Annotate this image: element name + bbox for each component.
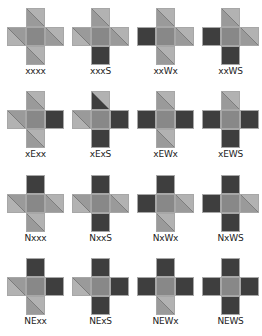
south-arm — [26, 129, 45, 148]
south-arm — [221, 213, 240, 232]
north-arm — [26, 91, 45, 110]
tile-label: NxWS — [202, 233, 259, 243]
cross-tile-xexx: xExx — [7, 91, 64, 159]
west-arm — [202, 194, 221, 213]
center-square — [26, 277, 45, 296]
tile-label: xxxx — [7, 66, 64, 76]
east-arm — [175, 27, 194, 46]
south-arm — [221, 129, 240, 148]
south-arm — [221, 46, 240, 65]
east-arm — [45, 110, 64, 129]
center-square — [91, 110, 110, 129]
west-arm — [72, 110, 91, 129]
tile-label: NEWx — [137, 316, 194, 326]
west-arm — [7, 194, 26, 213]
center-square — [26, 110, 45, 129]
center-square — [91, 194, 110, 213]
south-arm — [91, 213, 110, 232]
tile-label: xExx — [7, 149, 64, 159]
cross-tile-xexs: xExS — [72, 91, 129, 159]
west-arm — [137, 27, 156, 46]
east-arm — [175, 110, 194, 129]
north-arm — [91, 175, 110, 194]
south-arm — [156, 46, 175, 65]
center-square — [221, 277, 240, 296]
tile-label: xExS — [72, 149, 129, 159]
east-arm — [175, 194, 194, 213]
north-arm — [221, 8, 240, 27]
tile-label: Nxxx — [7, 233, 64, 243]
tile-label: xxxS — [72, 66, 129, 76]
east-arm — [110, 194, 129, 213]
center-square — [26, 27, 45, 46]
center-square — [221, 194, 240, 213]
west-arm — [202, 110, 221, 129]
cross-tile-nexx: NExx — [7, 258, 64, 326]
east-arm — [240, 277, 259, 296]
east-arm — [110, 27, 129, 46]
north-arm — [26, 175, 45, 194]
west-arm — [202, 27, 221, 46]
south-arm — [26, 213, 45, 232]
cross-tile-xxws: xxWS — [202, 8, 259, 76]
east-arm — [110, 110, 129, 129]
east-arm — [240, 110, 259, 129]
east-arm — [240, 194, 259, 213]
cross-tile-xxxx: xxxx — [7, 8, 64, 76]
cross-tile-nxws: NxWS — [202, 175, 259, 243]
tile-label: NxxS — [72, 233, 129, 243]
south-arm — [156, 129, 175, 148]
west-arm — [7, 27, 26, 46]
cross-tile-xewx: xEWx — [137, 91, 194, 159]
east-arm — [240, 27, 259, 46]
north-arm — [221, 258, 240, 277]
cross-tile-xxxs: xxxS — [72, 8, 129, 76]
north-arm — [26, 258, 45, 277]
south-arm — [156, 213, 175, 232]
cross-tile-nxwx: NxWx — [137, 175, 194, 243]
center-square — [156, 27, 175, 46]
west-arm — [202, 277, 221, 296]
south-arm — [156, 296, 175, 315]
east-arm — [45, 27, 64, 46]
west-arm — [7, 110, 26, 129]
cross-tile-nxxs: NxxS — [72, 175, 129, 243]
center-square — [26, 194, 45, 213]
cross-tile-newx: NEWx — [137, 258, 194, 326]
east-arm — [45, 194, 64, 213]
north-arm — [91, 258, 110, 277]
tile-label: NEWS — [202, 316, 259, 326]
north-arm — [156, 175, 175, 194]
west-arm — [72, 277, 91, 296]
north-arm — [91, 91, 110, 110]
north-arm — [26, 8, 45, 27]
west-arm — [137, 277, 156, 296]
north-arm — [221, 175, 240, 194]
north-arm — [221, 91, 240, 110]
center-square — [221, 110, 240, 129]
north-arm — [156, 8, 175, 27]
south-arm — [221, 296, 240, 315]
west-arm — [72, 27, 91, 46]
tile-label: NExx — [7, 316, 64, 326]
north-arm — [156, 258, 175, 277]
tile-label: xxWx — [137, 66, 194, 76]
east-arm — [175, 277, 194, 296]
west-arm — [72, 194, 91, 213]
east-arm — [45, 277, 64, 296]
cross-tile-nexs: NExS — [72, 258, 129, 326]
center-square — [221, 27, 240, 46]
west-arm — [137, 194, 156, 213]
cross-tile-xxwx: xxWx — [137, 8, 194, 76]
tile-label: xEWS — [202, 149, 259, 159]
south-arm — [26, 46, 45, 65]
east-arm — [110, 277, 129, 296]
west-arm — [137, 110, 156, 129]
west-arm — [7, 277, 26, 296]
center-square — [156, 194, 175, 213]
north-arm — [156, 91, 175, 110]
tile-label: NxWx — [137, 233, 194, 243]
center-square — [91, 277, 110, 296]
north-arm — [91, 8, 110, 27]
cross-tile-nxxx: Nxxx — [7, 175, 64, 243]
